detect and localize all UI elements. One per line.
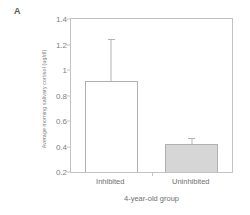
plot-inner: 0.20.40.60.811.21.4 bbox=[71, 19, 232, 172]
panel-letter-label: A bbox=[14, 6, 21, 16]
y-axis-tick-label: 0.6 bbox=[56, 117, 67, 126]
y-axis-tick-label: 0.4 bbox=[56, 142, 67, 151]
y-axis-tick-label: 0.8 bbox=[56, 91, 67, 100]
x-axis-title: 4-year-old group bbox=[70, 194, 233, 203]
error-bar-inhibited bbox=[111, 39, 112, 81]
y-axis-tick-mark bbox=[67, 146, 71, 147]
error-bar-cap-inhibited bbox=[108, 39, 115, 40]
x-axis-category-label: Uninhibited bbox=[172, 177, 210, 186]
y-axis-tick-mark bbox=[67, 121, 71, 122]
figure-panel-a: A Average morning salivary cortisol (ug/… bbox=[0, 0, 250, 215]
bar-uninhibited bbox=[165, 144, 218, 172]
y-axis-tick-mark bbox=[67, 70, 71, 71]
y-axis-tick-mark bbox=[67, 95, 71, 96]
y-axis-tick-label: 1.4 bbox=[56, 15, 67, 24]
y-axis-title: Average morning salivary cortisol (ug/dl… bbox=[41, 19, 47, 179]
x-axis-tick-mark bbox=[152, 172, 153, 176]
bar-inhibited bbox=[85, 81, 138, 172]
y-axis-tick-mark bbox=[67, 172, 71, 173]
y-axis-tick-mark bbox=[67, 19, 71, 20]
y-axis-tick-label: 0.2 bbox=[56, 168, 67, 177]
y-axis-tick-label: 1.2 bbox=[56, 40, 67, 49]
y-axis-tick-mark bbox=[67, 44, 71, 45]
x-axis-category-label: Inhibited bbox=[96, 177, 124, 186]
error-bar-cap-uninhibited bbox=[188, 138, 195, 139]
plot-area: 0.20.40.60.811.21.4 bbox=[70, 18, 233, 173]
